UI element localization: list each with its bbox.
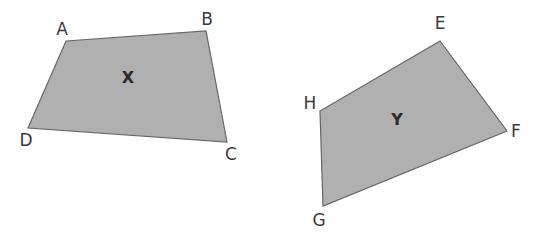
quadrilateral-y-shape [320, 41, 507, 206]
diagram-canvas: X A B C D Y E F G H [0, 0, 539, 238]
quadrilateral-x: X A B C D [19, 9, 236, 164]
vertex-label-f: F [511, 121, 521, 141]
vertex-label-d: D [19, 130, 32, 150]
vertex-label-e: E [435, 13, 446, 33]
vertex-label-g: G [312, 210, 325, 230]
vertex-label-b: B [201, 9, 213, 29]
vertex-label-h: H [304, 93, 317, 113]
vertex-label-c: C [225, 144, 237, 164]
shape-label-y: Y [390, 110, 403, 129]
vertex-label-a: A [56, 19, 68, 39]
shape-label-x: X [122, 68, 135, 87]
quadrilateral-y: Y E F G H [304, 13, 521, 230]
